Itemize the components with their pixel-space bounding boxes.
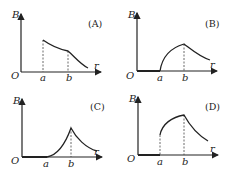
panel-label: (A)	[88, 18, 102, 29]
b-field-curve	[43, 40, 88, 68]
panel-label: (C)	[90, 101, 105, 112]
panel-label: (D)	[205, 101, 220, 112]
panel-d: B r O a b (D)	[127, 93, 220, 167]
y-axis-label: B	[12, 95, 20, 106]
origin-label: O	[127, 153, 135, 164]
origin-label: O	[126, 70, 134, 81]
panel-label: (B)	[205, 18, 219, 29]
y-axis-label: B	[11, 9, 19, 20]
b-field-curve	[160, 44, 210, 71]
origin-label: O	[11, 70, 19, 81]
panel-b: B r O a b (B)	[126, 9, 219, 83]
tick-label-b: b	[68, 158, 74, 169]
panel-c: B r O a b (C)	[11, 95, 105, 169]
y-axis-label: B	[127, 9, 135, 20]
tick-label-a: a	[157, 156, 163, 167]
tick-label-a: a	[157, 72, 163, 83]
panel-a: B r O a b (A)	[11, 9, 102, 83]
origin-label: O	[11, 155, 19, 166]
tick-label-b: b	[182, 156, 188, 167]
tick-label-b: b	[182, 72, 188, 83]
x-axis-label: r	[210, 59, 216, 70]
tick-label-a: a	[43, 158, 49, 169]
x-axis-label: r	[210, 143, 216, 154]
b-field-curve	[47, 128, 97, 157]
x-axis-label: r	[94, 146, 100, 157]
tick-label-b: b	[66, 72, 72, 83]
tick-label-a: a	[40, 72, 46, 83]
figure-canvas: B r O a b (A) B r O a b (B) B r O a b (C…	[0, 0, 231, 179]
y-axis-label: B	[128, 93, 136, 104]
x-axis-label: r	[94, 60, 100, 71]
